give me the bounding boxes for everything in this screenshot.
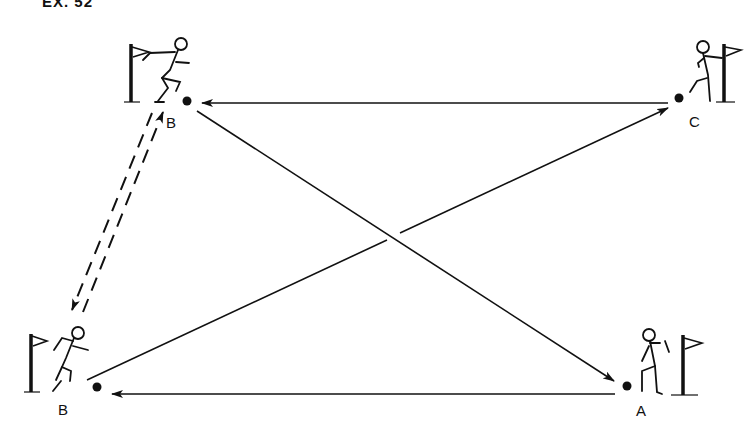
pass-arrows <box>72 103 668 394</box>
player-figure-icon <box>642 329 669 394</box>
player-figure-icon <box>690 41 722 101</box>
station-label-b-bottom: B <box>58 401 68 418</box>
flag-icon <box>716 44 741 102</box>
ball-icon <box>623 382 632 391</box>
flag-icon <box>124 44 149 102</box>
station-label-a: A <box>636 402 646 419</box>
balls <box>93 94 684 392</box>
flag-icon <box>671 335 702 395</box>
player-figure-icon <box>143 38 189 102</box>
ball-icon <box>183 97 192 106</box>
ball-icon <box>675 94 684 103</box>
flags <box>24 44 741 395</box>
dashed-arrow-b-top-to-b-bottom <box>72 113 152 310</box>
ball-icon <box>93 383 102 392</box>
arrow-b-bottom-to-c-part2 <box>400 108 668 233</box>
drill-diagram <box>0 0 756 433</box>
dashed-arrow-b-bottom-to-b-top <box>83 112 163 312</box>
station-label-b-top: B <box>166 114 176 131</box>
arrow-b-bottom-to-c-part1 <box>87 240 387 380</box>
player-figure-icon <box>53 327 88 391</box>
flag-icon <box>24 334 47 392</box>
arrow-b-top-to-a <box>197 111 614 381</box>
players <box>53 38 722 394</box>
station-label-c: C <box>689 113 700 130</box>
